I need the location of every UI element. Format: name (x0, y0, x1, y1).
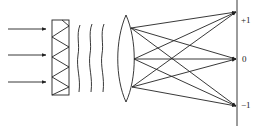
order-label-zero: 0 (242, 55, 247, 64)
order-label-minus1: −1 (241, 101, 251, 110)
incident-rays (8, 29, 46, 82)
diffracted-rays (131, 12, 236, 106)
wavefronts (78, 24, 104, 92)
order-label-plus1: +1 (241, 16, 251, 25)
diffraction-diagram (0, 0, 256, 132)
diffraction-grating (52, 20, 69, 95)
